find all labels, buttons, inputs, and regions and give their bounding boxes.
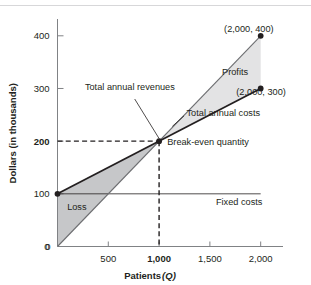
x-tick-label-1,000: 1,000 bbox=[147, 253, 171, 264]
y-tick-label-200: 200 bbox=[34, 136, 50, 147]
fixed-costs-label: Fixed costs bbox=[216, 197, 263, 207]
revenues-leader-line bbox=[135, 99, 159, 139]
x-axis-title-main: Patients bbox=[124, 270, 161, 281]
loss-label: Loss bbox=[67, 202, 87, 212]
x-axis-title: Patients (Q) bbox=[124, 270, 176, 281]
point-fixed-cost-intercept bbox=[55, 191, 61, 197]
y-tick-label-100: 100 bbox=[34, 188, 50, 199]
revenue-endpoint-label: (2,000, 400) bbox=[224, 24, 274, 34]
x-tick-label-500: 500 bbox=[100, 253, 116, 264]
x-tick-label-1,500: 1,500 bbox=[198, 253, 222, 264]
y-tick-label-300: 300 bbox=[34, 83, 50, 94]
profits-label: Profits bbox=[222, 67, 248, 77]
breakeven-label: Break-even quantity bbox=[167, 137, 249, 147]
chart-canvas: 0100200300400 05001,0001,5002,000 (2,000… bbox=[0, 0, 311, 285]
top-divider-rule bbox=[0, 5, 311, 6]
costs-label: Total annual costs bbox=[187, 108, 261, 118]
cost-endpoint-label: (2,000, 300) bbox=[236, 87, 286, 97]
y-tick-label-400: 400 bbox=[34, 30, 50, 41]
y-axis-ticks bbox=[58, 36, 64, 194]
break-even-chart-figure: 0100200300400 05001,0001,5002,000 (2,000… bbox=[0, 0, 311, 285]
point-break-even-point bbox=[156, 138, 162, 144]
x-axis-title-symbol: (Q) bbox=[162, 270, 176, 281]
x-tick-label-0: 0 bbox=[45, 241, 50, 252]
x-axis-ticks bbox=[108, 242, 260, 247]
y-axis-tick-labels: 0100200300400 bbox=[34, 30, 50, 252]
revenues-label: Total annual revenues bbox=[85, 82, 175, 92]
y-axis-title: Dollars (in thousands) bbox=[7, 83, 18, 183]
x-tick-label-2,000: 2,000 bbox=[249, 253, 273, 264]
point-revenue-endpoint bbox=[258, 33, 264, 39]
